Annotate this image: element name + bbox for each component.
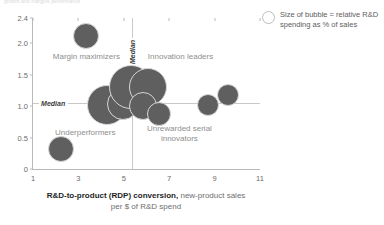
y-axis-tick-mark [30,74,33,75]
x-axis-title-bold: R&D-to-product (RDP) conversion, [47,191,179,200]
legend-text: Size of bubble = relative R&D spending a… [280,10,378,29]
x-axis-tick-mark [169,18,170,21]
x-axis-tick-mark [214,18,215,21]
x-axis-tick-label: 5 [122,169,126,183]
median-label-horizontal: Median [39,99,68,106]
median-label-vertical: Median [127,38,136,66]
x-axis-tick-label: 3 [76,169,80,183]
x-axis-tick-mark [33,18,34,21]
legend: Size of bubble = relative R&D spending a… [262,10,382,29]
x-axis-title-rest: new-product sales [178,191,245,200]
legend-line-1: Size of bubble = relative R&D [280,10,378,19]
legend-line-2: spending as % of sales [280,20,357,29]
data-bubble [73,23,99,49]
x-axis-tick-label: 1 [31,169,35,183]
quadrant-label: Unrewarded serialinnovators [147,124,212,144]
x-axis-tick-label: 11 [256,169,264,183]
data-bubble [147,102,171,126]
bubble-outline-icon [262,11,275,24]
y-axis-tick-mark [30,106,33,107]
x-axis-tick-mark [260,18,261,21]
quadrant-label: Margin maximizers [53,52,120,62]
plot-area: 00.51.01.52.02.41357911MedianMedianMargi… [32,18,260,170]
y-axis-tick-mark [30,137,33,138]
data-bubble [217,84,239,106]
x-axis-title: R&D-to-product (RDP) conversion, new-pro… [32,190,260,212]
x-axis-title-line2: per $ of R&D spend [111,202,181,211]
data-bubble [48,136,74,162]
x-axis-tick-mark [123,18,124,21]
bubble-chart: growth and margins performance 00.51.01.… [0,0,384,225]
x-axis-tick-mark [78,18,79,21]
cropped-header-text: growth and margins performance [4,0,80,4]
y-axis-tick-mark [30,43,33,44]
quadrant-label: Innovation leaders [148,52,213,62]
x-axis-tick-label: 9 [213,169,217,183]
x-axis-tick-label: 7 [167,169,171,183]
data-bubble [197,94,219,116]
